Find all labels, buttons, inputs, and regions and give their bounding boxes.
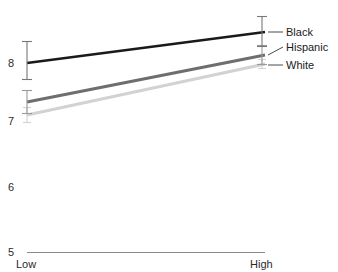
line-chart: 8 7 6 5 Low High Black Hispanic White <box>0 0 338 272</box>
series-label-white: White <box>286 60 314 71</box>
error-bar-black-high <box>257 16 267 47</box>
series-line-black <box>27 32 265 63</box>
y-tick-label-5: 5 <box>8 247 14 258</box>
series-label-black: Black <box>286 27 313 38</box>
x-tick-label-low: Low <box>16 259 36 270</box>
error-bar-black-low <box>22 41 32 80</box>
series-line-white <box>27 64 265 115</box>
series-line-hispanic <box>27 55 265 102</box>
x-tick-label-high: High <box>250 259 273 270</box>
y-tick-label-6: 6 <box>8 182 14 193</box>
leader-line-hispanic <box>268 47 283 55</box>
y-tick-label-7: 7 <box>8 116 14 127</box>
series-label-hispanic: Hispanic <box>286 42 328 53</box>
y-tick-label-8: 8 <box>8 58 14 69</box>
